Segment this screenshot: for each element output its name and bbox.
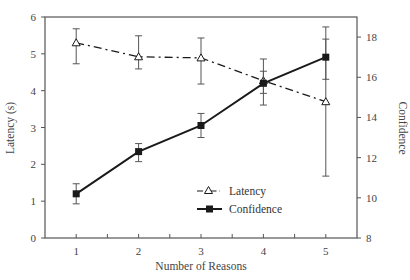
y2-tick-label: 8 xyxy=(366,232,372,244)
x-tick-label: 5 xyxy=(323,245,329,257)
x-tick-label: 3 xyxy=(198,245,204,257)
y2-tick-label: 14 xyxy=(366,111,378,123)
filled-square-marker xyxy=(73,190,80,197)
y2-tick-label: 12 xyxy=(366,152,377,164)
filled-square-marker xyxy=(260,80,267,87)
x-tick-label: 1 xyxy=(73,245,79,257)
svg-text:Confidence: Confidence xyxy=(229,203,282,215)
y2-tick-label: 18 xyxy=(366,31,378,43)
y-tick-label: 0 xyxy=(31,232,37,244)
y-tick-label: 6 xyxy=(31,11,37,23)
right-y-axis: 81012141618 xyxy=(357,31,378,244)
open-triangle-icon xyxy=(205,187,213,194)
right-y-axis-title: Confidence xyxy=(397,101,409,154)
open-triangle-marker xyxy=(197,54,205,61)
legend-item-latency: Latency xyxy=(197,185,266,198)
x-axis-title: Number of Reasons xyxy=(155,260,247,272)
series-latency xyxy=(72,27,330,176)
y-tick-label: 4 xyxy=(31,85,37,97)
x-tick-label: 2 xyxy=(136,245,142,257)
y-tick-label: 5 xyxy=(31,48,37,60)
y-tick-label: 2 xyxy=(31,158,37,170)
filled-square-icon xyxy=(206,206,213,213)
filled-square-marker xyxy=(135,148,142,155)
left-y-axis-title: Latency (s) xyxy=(4,102,17,154)
x-tick-label: 4 xyxy=(261,245,267,257)
y2-tick-label: 16 xyxy=(366,71,378,83)
svg-text:Latency: Latency xyxy=(229,185,266,198)
legend-item-confidence: Confidence xyxy=(197,203,282,215)
filled-square-marker xyxy=(322,54,329,61)
open-triangle-marker xyxy=(72,39,80,46)
legend: Latency Confidence xyxy=(197,185,282,215)
y-tick-label: 1 xyxy=(31,195,37,207)
y-tick-label: 3 xyxy=(31,122,37,134)
dual-axis-line-chart: 0123456 81012141618 12345 Number of Reas… xyxy=(0,0,410,280)
left-y-axis: 0123456 xyxy=(31,11,46,244)
filled-square-marker xyxy=(198,122,205,129)
y2-tick-label: 10 xyxy=(366,192,378,204)
